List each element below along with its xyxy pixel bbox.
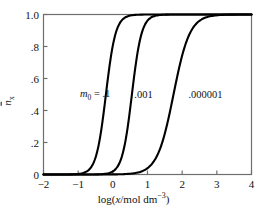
x-axis-title-units: /mol dm <box>120 193 157 205</box>
y-axis-title-main: n <box>1 100 13 106</box>
x-axis-title-main: log( <box>98 193 116 205</box>
y-tick-label: .2 <box>14 137 39 148</box>
curve-annotation: .000001 <box>188 89 222 100</box>
figure-container: 0.2.4.6.81.0 −2−101234 m0 = .1.001.00000… <box>0 0 267 215</box>
annotation-symbol: m <box>80 87 88 98</box>
curve-annotation: .001 <box>134 89 152 100</box>
annotation-value: .000001 <box>188 88 222 99</box>
x-tick-label: −1 <box>72 179 84 190</box>
x-tick-label: −2 <box>38 179 50 190</box>
y-tick-label: 0 <box>14 169 39 180</box>
x-axis-title: log(x/mol dm−3) <box>0 192 267 205</box>
y-tick-label: .8 <box>14 41 39 52</box>
annotation-value: .001 <box>134 88 152 99</box>
y-tick-label: .4 <box>14 105 39 116</box>
y-axis-title: nx <box>2 96 16 105</box>
curve-annotation: m0 = .1 <box>80 88 110 101</box>
y-tick-label: .6 <box>14 73 39 84</box>
x-axis-title-close: ) <box>166 193 170 205</box>
x-tick-label: 3 <box>214 179 220 190</box>
x-tick-label: 2 <box>179 179 185 190</box>
overbar-decoration <box>1 102 2 106</box>
x-tick-label: 4 <box>249 179 255 190</box>
annotation-value: = .1 <box>91 87 110 98</box>
x-tick-label: 1 <box>145 179 151 190</box>
y-tick-label: 1.0 <box>14 9 39 20</box>
y-axis-title-nbar: n <box>2 100 13 106</box>
x-tick-label: 0 <box>110 179 116 190</box>
x-axis-title-exponent: −3 <box>157 191 165 200</box>
